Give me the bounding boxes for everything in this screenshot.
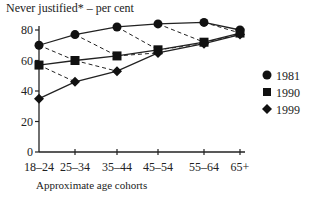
svg-text:40: 40 (21, 84, 33, 98)
svg-text:60: 60 (21, 54, 33, 68)
svg-text:35–44: 35–44 (102, 160, 132, 174)
legend-item-1990: 1990 (262, 85, 300, 102)
legend-label: 1981 (276, 69, 300, 84)
svg-text:65+: 65+ (231, 160, 250, 174)
svg-text:25–34: 25–34 (60, 160, 90, 174)
svg-text:0: 0 (27, 145, 33, 159)
circle-marker-icon (262, 69, 276, 84)
square-marker-icon (262, 86, 276, 101)
legend-label: 1990 (276, 86, 300, 101)
svg-text:20: 20 (21, 115, 33, 129)
svg-text:45–54: 45–54 (143, 160, 173, 174)
legend-item-1981: 1981 (262, 68, 300, 85)
diamond-marker-icon (262, 103, 276, 118)
svg-text:18–24: 18–24 (24, 160, 54, 174)
legend-label: 1999 (276, 103, 300, 118)
legend: 1981 1990 1999 (262, 68, 300, 119)
legend-item-1999: 1999 (262, 102, 300, 119)
svg-text:80: 80 (21, 23, 33, 37)
x-axis-label: Approximate age cohorts (36, 179, 147, 191)
svg-text:55–64: 55–64 (189, 160, 219, 174)
